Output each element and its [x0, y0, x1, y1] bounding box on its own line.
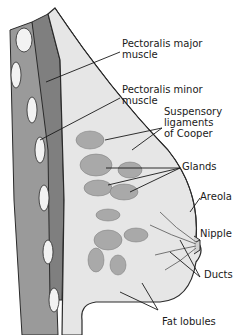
rib [16, 28, 32, 52]
label-pectoralis-minor: Pectoralis minor muscle [122, 84, 203, 106]
label-fat-lobules: Fat lobules [162, 316, 216, 327]
label-suspensory-ligaments: Suspensory ligaments of Cooper [164, 106, 222, 139]
label-ducts: Ducts [204, 269, 233, 280]
rib [49, 288, 59, 312]
rib [27, 97, 37, 123]
label-areola: Areola [200, 191, 232, 202]
rib [43, 240, 53, 264]
rib [35, 137, 45, 163]
rib [39, 185, 49, 211]
label-glands: Glands [182, 161, 217, 172]
rib [11, 62, 21, 88]
label-nipple: Nipple [200, 228, 232, 239]
label-pectoralis-major: Pectoralis major muscle [122, 38, 202, 60]
